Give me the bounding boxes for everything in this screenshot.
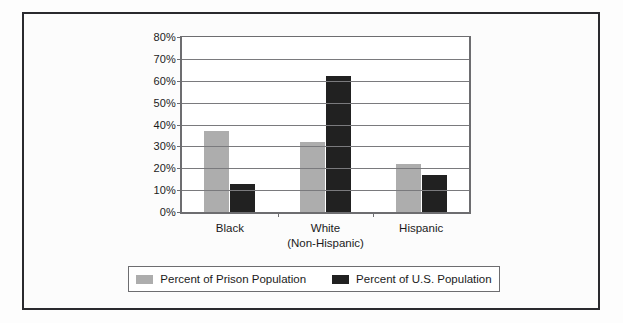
gridline	[182, 190, 469, 191]
chart-legend: Percent of Prison Population Percent of …	[128, 266, 500, 292]
bar	[396, 164, 421, 212]
x-axis-tick-label: Hispanic	[399, 221, 443, 236]
bar	[230, 184, 255, 212]
y-axis-tick-label: 10%	[153, 184, 176, 196]
x-axis-tick-label-line: White	[287, 221, 364, 236]
legend-item-us-population: Percent of U.S. Population	[332, 273, 492, 285]
y-axis-tick-label: 20%	[153, 162, 176, 174]
x-axis-tick-mark	[373, 212, 374, 217]
y-axis-tick-mark	[177, 190, 182, 191]
chart-frame: 0%10%20%30%40%50%60%70%80%BlackWhite(Non…	[22, 12, 600, 310]
y-axis-tick-label: 30%	[153, 140, 176, 152]
y-axis-tick-label: 50%	[153, 97, 176, 109]
y-axis-tick-mark	[177, 212, 182, 213]
gridline	[182, 168, 469, 169]
gridline	[182, 146, 469, 147]
x-axis-tick-label-line: (Non-Hispanic)	[287, 236, 364, 251]
legend-swatch-icon-prison-population	[136, 275, 153, 284]
bar	[204, 131, 229, 212]
y-axis-tick-mark	[177, 81, 182, 82]
x-axis-tick-label-line: Black	[216, 221, 244, 236]
y-axis-tick-label: 0%	[160, 206, 176, 218]
y-axis-tick-mark	[177, 103, 182, 104]
legend-item-prison-population: Percent of Prison Population	[136, 273, 306, 285]
y-axis-tick-mark	[177, 59, 182, 60]
y-axis-tick-mark	[177, 125, 182, 126]
legend-label-prison-population: Percent of Prison Population	[160, 273, 306, 285]
gridline	[182, 125, 469, 126]
y-axis-tick-mark	[177, 146, 182, 147]
y-axis-tick-label: 40%	[153, 119, 176, 131]
x-axis-tick-label: Black	[216, 221, 244, 236]
y-axis-tick-label: 80%	[153, 31, 176, 43]
x-axis-tick-label-line: Hispanic	[399, 221, 443, 236]
bar	[422, 175, 447, 212]
y-axis-tick-label: 60%	[153, 75, 176, 87]
gridline	[182, 81, 469, 82]
bar	[326, 76, 351, 212]
figure-container: 0%10%20%30%40%50%60%70%80%BlackWhite(Non…	[0, 0, 623, 323]
x-axis-tick-mark	[278, 212, 279, 217]
plot-area: 0%10%20%30%40%50%60%70%80%BlackWhite(Non…	[180, 36, 471, 214]
y-axis-tick-mark	[177, 168, 182, 169]
gridline	[182, 59, 469, 60]
legend-label-us-population: Percent of U.S. Population	[356, 273, 492, 285]
x-axis-tick-label: White(Non-Hispanic)	[287, 221, 364, 251]
y-axis-tick-label: 70%	[153, 53, 176, 65]
y-axis-tick-mark	[177, 37, 182, 38]
gridline	[182, 103, 469, 104]
legend-swatch-icon-us-population	[332, 275, 349, 284]
bar	[300, 142, 325, 212]
plot-wrapper: 0%10%20%30%40%50%60%70%80%BlackWhite(Non…	[24, 14, 602, 312]
